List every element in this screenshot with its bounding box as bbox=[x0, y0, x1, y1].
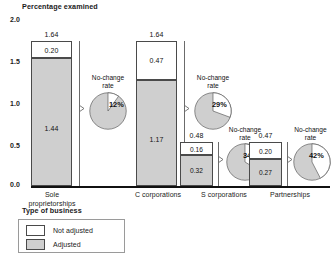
pie-chart-partnerships: No-change rate 42% bbox=[292, 126, 332, 181]
pie-caption-line1: No-change bbox=[197, 74, 229, 82]
bar-segment-not-adjusted[interactable]: 0.47 bbox=[136, 41, 177, 80]
bar-segment-not-adjusted[interactable]: 0.16 bbox=[180, 142, 213, 155]
legend-label-adjusted: Adjusted bbox=[53, 241, 81, 248]
pie-caption-line1: No-change bbox=[92, 74, 124, 82]
pie-caption-line2: rate bbox=[207, 82, 218, 90]
bar-total-label: 1.64 bbox=[31, 31, 72, 38]
x-category-c-corporations: C corporations bbox=[120, 190, 196, 199]
legend-swatch-not-adjusted bbox=[26, 225, 45, 236]
chart-container: Percentage examined 2.0 1.5 1.0 0.5 0.0 … bbox=[0, 0, 332, 257]
y-tick-0.5: 0.5 bbox=[0, 142, 20, 149]
bar-segment-adjusted[interactable]: 0.27 bbox=[249, 159, 282, 186]
bar-segment-value: 0.27 bbox=[250, 169, 281, 176]
bar-segment-value: 0.20 bbox=[32, 47, 71, 54]
bar-segment-adjusted[interactable]: 1.44 bbox=[31, 58, 72, 186]
pie-graphic[interactable] bbox=[194, 92, 232, 130]
bar-segment-value: 0.32 bbox=[181, 167, 212, 174]
pie-graphic[interactable] bbox=[293, 143, 331, 181]
pie-caption-line2: rate bbox=[102, 82, 113, 90]
y-tick-1.5: 1.5 bbox=[0, 58, 20, 65]
pie-chart-sole-proprietorships: No-change rate 12% bbox=[87, 74, 129, 129]
y-tick-0.0: 0.0 bbox=[0, 181, 20, 188]
pie-graphic[interactable] bbox=[89, 92, 127, 130]
x-category-partnerships: Partnerships bbox=[256, 190, 324, 199]
pie-percent-label: 42% bbox=[309, 151, 324, 160]
bar-total-label: 0.48 bbox=[180, 132, 213, 139]
bar-segment-value: 0.20 bbox=[250, 148, 281, 155]
y-tick-2.0: 2.0 bbox=[0, 16, 20, 23]
legend: Not adjusted Adjusted bbox=[18, 219, 125, 253]
x-axis-line bbox=[31, 186, 330, 188]
bar-segment-value: 1.17 bbox=[137, 136, 176, 143]
bar-segment-value: 0.47 bbox=[137, 57, 176, 64]
pie-caption-line1: No-change bbox=[294, 126, 326, 134]
bracket-tip-icon bbox=[79, 105, 84, 112]
x-axis-title: Type of business bbox=[22, 206, 82, 215]
bar-segment-adjusted[interactable]: 1.17 bbox=[136, 80, 177, 186]
bar-segment-not-adjusted[interactable]: 0.20 bbox=[249, 142, 282, 159]
bar-segment-adjusted[interactable]: 0.32 bbox=[180, 155, 213, 186]
legend-label-not-adjusted: Not adjusted bbox=[53, 227, 93, 234]
pie-percent-label: 12% bbox=[109, 100, 124, 109]
pie-caption-line2: rate bbox=[305, 134, 316, 142]
y-axis-title: Percentage examined bbox=[22, 2, 98, 11]
y-tick-1.0: 1.0 bbox=[0, 100, 20, 107]
bar-segment-value: 1.44 bbox=[32, 125, 71, 132]
x-category-s-corporations: S corporations bbox=[186, 190, 262, 199]
bar-total-label: 0.47 bbox=[249, 132, 282, 139]
pie-percent-label: 29% bbox=[212, 100, 227, 109]
bracket-tip-icon bbox=[184, 105, 189, 112]
bar-segment-not-adjusted[interactable]: 0.20 bbox=[31, 41, 72, 58]
legend-swatch-adjusted bbox=[26, 239, 45, 250]
pie-chart-c-corporations: No-change rate 29% bbox=[192, 74, 234, 129]
bar-total-label: 1.64 bbox=[136, 31, 177, 38]
bracket-tip-icon bbox=[218, 156, 223, 163]
bar-segment-value: 0.16 bbox=[181, 146, 212, 153]
